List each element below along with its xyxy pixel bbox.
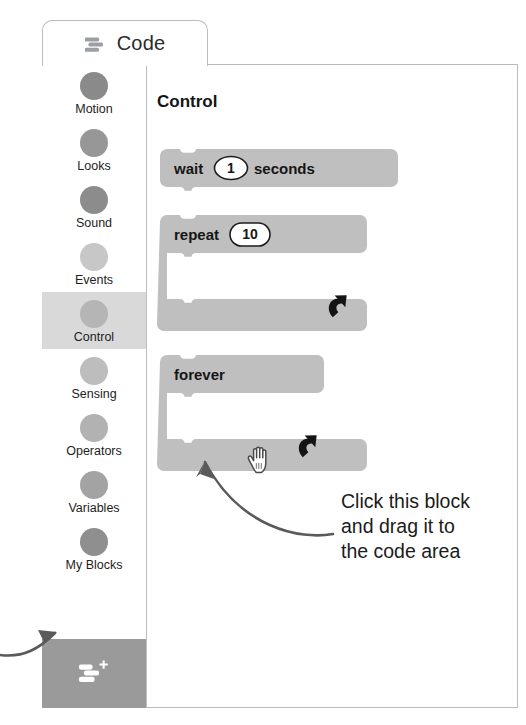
code-tab[interactable]: Code xyxy=(42,20,208,66)
palette-blocks-canvas: wait 1 seconds repeat 10 forever xyxy=(147,64,518,708)
sidebar-item-variables[interactable]: Variables xyxy=(42,463,146,520)
sidebar-item-label: Motion xyxy=(75,103,113,116)
sidebar-item-label: Variables xyxy=(68,502,119,515)
sidebar-item-sound[interactable]: Sound xyxy=(42,178,146,235)
sidebar-item-control[interactable]: Control xyxy=(42,292,146,349)
add-extension-button[interactable] xyxy=(42,639,146,708)
sidebar-item-label: Operators xyxy=(66,445,122,458)
sidebar-item-label: Control xyxy=(74,331,114,344)
category-dot-sound xyxy=(80,186,108,214)
sidebar-item-events[interactable]: Events xyxy=(42,235,146,292)
code-tab-label: Code xyxy=(117,32,166,55)
sidebar-item-motion[interactable]: Motion xyxy=(42,64,146,121)
callout-line-3: the code area xyxy=(341,539,516,564)
sidebar-item-label: Sound xyxy=(76,217,112,230)
repeat-block-value: 10 xyxy=(242,226,258,242)
category-sidebar: Motion Looks Sound Events Control Sensin… xyxy=(42,64,147,708)
callout-text: Click this block and drag it to the code… xyxy=(341,489,516,564)
wait-block[interactable]: wait 1 seconds xyxy=(160,149,398,191)
category-dot-control xyxy=(80,300,108,328)
repeat-block[interactable]: repeat 10 xyxy=(157,215,367,331)
sidebar-item-operators[interactable]: Operators xyxy=(42,406,146,463)
repeat-block-word-1: repeat xyxy=(174,226,219,243)
wait-block-word-1: wait xyxy=(173,160,203,177)
blocks-palette: Control wait 1 seconds repeat 10 forever xyxy=(147,64,518,708)
category-dot-sensing xyxy=(80,357,108,385)
forever-block[interactable]: forever xyxy=(157,355,367,471)
sidebar-item-label: Sensing xyxy=(71,388,116,401)
sidebar-item-label: Looks xyxy=(77,160,110,173)
add-extension-icon xyxy=(77,659,111,689)
code-blocks-icon xyxy=(85,35,107,53)
sidebar-item-label: Events xyxy=(75,274,113,287)
sidebar-item-my-blocks[interactable]: My Blocks xyxy=(42,520,146,577)
category-dot-looks xyxy=(80,129,108,157)
wait-block-word-2: seconds xyxy=(254,160,315,177)
category-dot-motion xyxy=(80,72,108,100)
category-list: Motion Looks Sound Events Control Sensin… xyxy=(42,64,146,577)
sidebar-item-label: My Blocks xyxy=(66,559,123,572)
sidebar-item-sensing[interactable]: Sensing xyxy=(42,349,146,406)
callout-line-1: Click this block xyxy=(341,489,516,514)
sidebar-item-looks[interactable]: Looks xyxy=(42,121,146,178)
wait-block-value: 1 xyxy=(227,160,235,176)
category-dot-operators xyxy=(80,414,108,442)
category-dot-events xyxy=(80,243,108,271)
forever-block-word-1: forever xyxy=(174,366,225,383)
category-dot-my-blocks xyxy=(80,528,108,556)
callout-line-2: and drag it to xyxy=(341,514,516,539)
category-dot-variables xyxy=(80,471,108,499)
